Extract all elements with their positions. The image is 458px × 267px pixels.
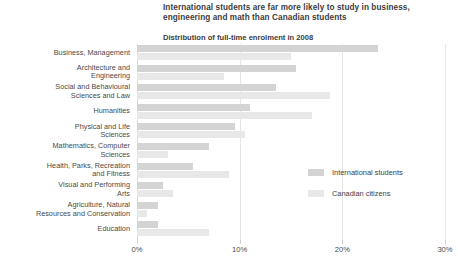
category-label-line: Education [0, 225, 130, 234]
bar-canadian [137, 171, 229, 178]
category-label: Humanities [0, 107, 130, 116]
bar-international [137, 123, 235, 130]
category-label: Visual and PerformingArts [0, 181, 130, 198]
bar-international [137, 84, 276, 91]
bar-international [137, 182, 163, 189]
bar-row [137, 221, 445, 241]
bar-row [137, 202, 445, 222]
gridline-30 [445, 44, 446, 240]
x-tick-label: 30% [437, 245, 452, 254]
chart-title: International students are far more like… [163, 3, 453, 24]
category-axis-labels: Business, ManagementArchitecture andEngi… [0, 44, 130, 240]
category-label: Agriculture, NaturalResources and Conser… [0, 201, 130, 218]
bar-canadian [137, 151, 168, 158]
category-label: Business, Management [0, 49, 130, 58]
legend-swatch-icon [308, 169, 324, 176]
bar-row [137, 182, 445, 202]
category-label-line: and Fitness [0, 170, 130, 179]
x-axis: 0%10%20%30% [137, 240, 445, 260]
bar-international [137, 221, 158, 228]
bar-row [137, 84, 445, 104]
bar-international [137, 65, 296, 72]
category-label-line: Sciences [0, 131, 130, 140]
x-tick-label: 20% [335, 245, 350, 254]
category-label-line: Engineering [0, 72, 130, 81]
category-label-line: Business, Management [0, 49, 130, 58]
legend-label: International students [332, 168, 403, 177]
bar-canadian [137, 229, 209, 236]
category-label-line: Sciences and Law [0, 92, 130, 101]
legend-swatch-icon [308, 190, 324, 197]
bar-row [137, 65, 445, 85]
bar-international [137, 45, 378, 52]
bar-row [137, 143, 445, 163]
category-label-line: Visual and Performing [0, 181, 130, 190]
category-label: Education [0, 225, 130, 234]
chart-container: International students are far more like… [0, 0, 458, 267]
x-tick-mark [342, 240, 343, 244]
legend-label: Canadian citizens [332, 189, 390, 198]
chart-header: International students are far more like… [163, 3, 453, 43]
bar-international [137, 104, 250, 111]
bar-canadian [137, 53, 291, 60]
bar-international [137, 143, 209, 150]
bar-canadian [137, 92, 330, 99]
x-tick-label: 10% [232, 245, 247, 254]
bar-row [137, 45, 445, 65]
bar-canadian [137, 190, 173, 197]
category-label-line: Sciences [0, 151, 130, 160]
bar-canadian [137, 73, 224, 80]
category-label: Health, Parks, Recreationand Fitness [0, 162, 130, 179]
category-label-line: Arts [0, 190, 130, 199]
category-label-line: Resources and Conservation [0, 210, 130, 219]
bar-canadian [137, 112, 312, 119]
bar-canadian [137, 210, 147, 217]
category-label: Mathematics, ComputerSciences [0, 142, 130, 159]
category-label: Social and BehaviouralSciences and Law [0, 83, 130, 100]
plot-area [137, 44, 445, 240]
bar-row [137, 104, 445, 124]
bar-international [137, 163, 193, 170]
chart-subtitle: Distribution of full-time enrolment in 2… [163, 33, 453, 43]
x-tick-label: 0% [132, 245, 143, 254]
category-label: Architecture andEngineering [0, 64, 130, 81]
x-tick-mark [445, 240, 446, 244]
bar-rows [137, 44, 445, 240]
x-tick-mark [240, 240, 241, 244]
category-label-line: Humanities [0, 107, 130, 116]
x-tick-mark [137, 240, 138, 244]
bar-row [137, 123, 445, 143]
category-label: Physical and LifeSciences [0, 123, 130, 140]
bar-international [137, 202, 158, 209]
bar-canadian [137, 131, 245, 138]
